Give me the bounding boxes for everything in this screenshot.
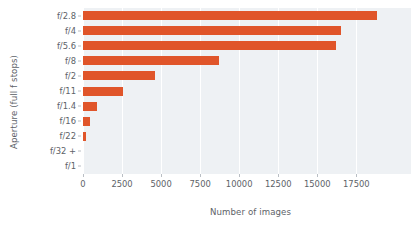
y-tick-mark — [78, 91, 81, 92]
y-tick-label: f/22 — [60, 132, 76, 141]
x-tick-label: 17500 — [343, 179, 370, 189]
y-tick-label: f/11 — [60, 87, 76, 96]
bar — [83, 117, 90, 126]
y-tick-mark — [78, 30, 81, 31]
y-tick-mark — [78, 106, 81, 107]
y-tick-mark — [78, 45, 81, 46]
y-tick-label: f/2.8 — [57, 11, 76, 20]
x-axis-title: Number of images — [83, 207, 418, 217]
y-tick-mark — [78, 75, 81, 76]
x-tick-label: 2500 — [111, 179, 132, 189]
bar — [83, 132, 86, 141]
chart-figure: Aperture (full f stops) f/2.8f/4f/5.6f/8… — [0, 0, 418, 236]
y-tick-mark — [78, 136, 81, 137]
x-tick-mark — [278, 174, 279, 177]
y-tick-mark — [78, 15, 81, 16]
x-tick-mark — [122, 174, 123, 177]
bar — [83, 87, 123, 96]
y-tick-label: f/32 + — [50, 147, 76, 156]
x-tick-label: 12500 — [265, 179, 292, 189]
y-tick-label: f/2 — [65, 71, 76, 80]
y-tick-mark — [78, 166, 81, 167]
bar — [83, 41, 336, 50]
x-tick-label: 15000 — [304, 179, 331, 189]
x-axis-tick-group: 025005000750010000125001500017500 — [83, 174, 411, 196]
gridline — [356, 8, 357, 174]
y-tick-mark — [78, 60, 81, 61]
y-tick-mark — [78, 121, 81, 122]
y-tick-mark — [78, 151, 81, 152]
x-tick-mark — [239, 174, 240, 177]
y-tick-label: f/1 — [65, 162, 76, 171]
y-tick-label: f/1.4 — [57, 102, 76, 111]
x-tick-label: 7500 — [189, 179, 210, 189]
bar — [83, 56, 219, 65]
y-axis-tick-group: f/2.8f/4f/5.6f/8f/2f/11f/1.4f/16f/22f/32… — [0, 8, 83, 174]
x-tick-mark — [83, 174, 84, 177]
x-tick-mark — [356, 174, 357, 177]
y-tick-label: f/8 — [65, 56, 76, 65]
plot-area — [83, 8, 411, 174]
bar — [83, 26, 341, 35]
x-tick-label: 10000 — [226, 179, 253, 189]
bar — [83, 102, 97, 111]
y-tick-label: f/16 — [60, 117, 76, 126]
x-tick-mark — [161, 174, 162, 177]
y-tick-label: f/5.6 — [57, 41, 76, 50]
x-tick-label: 5000 — [150, 179, 171, 189]
bar — [83, 71, 155, 80]
x-tick-mark — [200, 174, 201, 177]
x-tick-label: 0 — [80, 179, 85, 189]
y-tick-label: f/4 — [65, 26, 76, 35]
bar — [83, 11, 377, 20]
x-tick-mark — [317, 174, 318, 177]
